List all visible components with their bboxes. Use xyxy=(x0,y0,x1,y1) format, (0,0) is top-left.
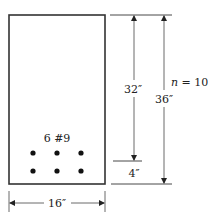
width-dimension: 16″ xyxy=(9,191,105,212)
reinforcing-bars xyxy=(30,150,83,173)
effective-depth-label: 32″ xyxy=(124,83,142,96)
rebar-dot xyxy=(54,168,59,173)
rebar-dot xyxy=(78,150,83,155)
rebar-dot xyxy=(30,168,35,173)
modular-ratio-label: n = 10 xyxy=(171,76,208,89)
rebar-dot xyxy=(30,150,35,155)
total-depth-dimension: 36″ xyxy=(155,16,173,183)
effective-depth-dimension: 32″ xyxy=(124,16,142,160)
beam-cross-section xyxy=(9,15,105,184)
cover-label: 4″ xyxy=(128,167,139,180)
rebar-label: 6 #9 xyxy=(44,132,71,145)
total-depth-label: 36″ xyxy=(155,93,173,106)
width-label: 16″ xyxy=(48,197,66,210)
rebar-dot xyxy=(54,150,59,155)
rebar-dot xyxy=(78,168,83,173)
beam-section-diagram: 6 #9 32″ 36″ n = 10 4″ 16″ xyxy=(0,0,208,222)
